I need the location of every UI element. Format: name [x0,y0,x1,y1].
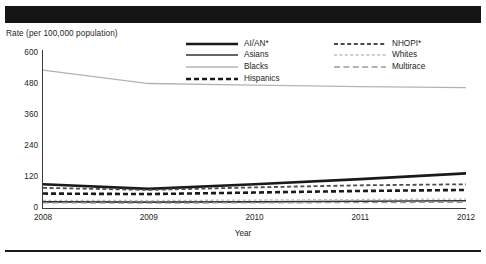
series-line-hispanics [43,190,466,194]
legend-column-left: AI/AN*AsiansBlacksHispanics [186,38,280,84]
legend-item-whites[interactable]: Whites [334,50,425,62]
legend-item-nhopi[interactable]: NHOPI* [334,38,425,50]
legend-item-hispanics[interactable]: Hispanics [186,73,280,85]
x-tick-2009: 2009 [140,213,158,222]
footer-rule [5,250,481,252]
legend-label: Blacks [244,62,268,72]
x-tick-2010: 2010 [245,213,263,222]
y-axis-title: Rate (per 100,000 population) [6,29,118,38]
legend-swatch-icon [186,62,238,72]
legend-label: AI/AN* [244,39,269,49]
x-axis-title: Year [0,229,486,238]
y-tick-0: 0 [8,203,38,212]
legend-swatch-icon [186,74,238,84]
series-line-whites [43,199,466,201]
y-tick-480: 480 [8,79,38,88]
legend-column-right: NHOPI*WhitesMultirace [334,38,425,73]
chart-legend: AI/AN*AsiansBlacksHispanics NHOPI*Whites… [186,38,476,86]
x-axis-line [42,208,466,209]
y-tick-600: 600 [8,48,38,57]
legend-swatch-icon [334,62,386,72]
legend-item-multirace[interactable]: Multirace [334,61,425,73]
legend-swatch-icon [186,39,238,49]
y-tick-360: 360 [8,110,38,119]
legend-label: Multirace [392,62,425,72]
legend-label: Asians [244,50,269,60]
y-axis-tick-labels: 0120240360480600 [4,52,38,207]
y-tick-120: 120 [8,172,38,181]
legend-item-blacks[interactable]: Blacks [186,61,280,73]
x-tick-2012: 2012 [457,213,475,222]
legend-swatch-icon [334,50,386,60]
legend-swatch-icon [186,50,238,60]
legend-label: NHOPI* [392,39,421,49]
x-tick-2008: 2008 [34,213,52,222]
y-tick-240: 240 [8,141,38,150]
legend-item-asians[interactable]: Asians [186,50,280,62]
x-tick-2011: 2011 [351,213,369,222]
redacted-title-band [5,6,481,23]
legend-label: Hispanics [244,74,280,84]
legend-item-aian[interactable]: AI/AN* [186,38,280,50]
figure-container: Rate (per 100,000 population) 0120240360… [0,0,486,264]
legend-label: Whites [392,50,417,60]
legend-swatch-icon [334,39,386,49]
